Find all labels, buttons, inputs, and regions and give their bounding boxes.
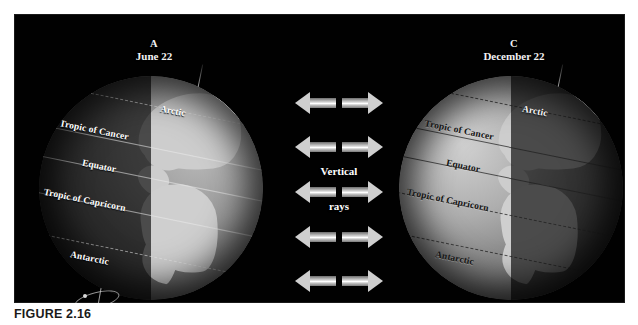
orbit-inset-diagram xyxy=(74,286,120,303)
arrow-left-icon xyxy=(295,226,336,248)
ray-row xyxy=(295,136,383,158)
globe-a-header: A June 22 xyxy=(104,38,204,62)
vertical-rays-label-line1: Vertical xyxy=(295,165,383,177)
orbit-marker-icon xyxy=(83,294,87,298)
arrow-left-icon xyxy=(295,270,336,292)
vertical-rays-group: Vertical rays xyxy=(295,92,383,292)
arrow-right-icon xyxy=(342,270,383,292)
globe-a-limb-shading xyxy=(39,76,263,300)
globe-c-header: C December 22 xyxy=(464,38,564,62)
ray-row xyxy=(295,226,383,248)
globe-a-date: June 22 xyxy=(104,50,204,62)
arrow-right-icon xyxy=(342,136,383,158)
globe-c-limb-shading xyxy=(399,76,623,300)
globe-a-letter: A xyxy=(104,38,204,50)
globe-june-22: Arctic Tropic of Cancer Equator Tropic o… xyxy=(39,76,263,300)
vertical-rays-label-line2: rays xyxy=(295,200,383,212)
figure-panel: A June 22 C December 22 xyxy=(14,14,625,303)
figure-caption: FIGURE 2.16 xyxy=(14,307,91,321)
orbit-ring-icon xyxy=(73,287,122,303)
arrow-left-icon xyxy=(295,136,336,158)
arrow-right-icon xyxy=(342,92,383,114)
globe-c-date: December 22 xyxy=(464,50,564,62)
globe-december-22: Arctic Tropic of Cancer Equator Tropic o… xyxy=(399,76,623,300)
globe-c-letter: C xyxy=(464,38,564,50)
arrow-right-icon xyxy=(342,226,383,248)
figure-root: A June 22 C December 22 xyxy=(0,0,638,325)
ray-row xyxy=(295,270,383,292)
arrow-left-icon xyxy=(295,92,336,114)
ray-row xyxy=(295,92,383,114)
